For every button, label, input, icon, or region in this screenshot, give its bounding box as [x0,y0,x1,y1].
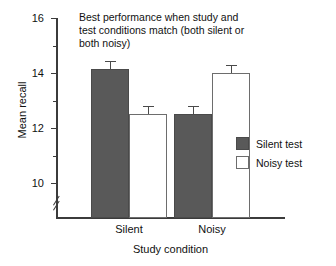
x-tick-label-noisy: Noisy [198,223,226,235]
y-tick-minor-15 [53,46,57,47]
annotation-line-1: Best performance when study and [79,11,284,24]
x-axis-title: Study condition [56,243,285,255]
y-axis-label: Mean recall [16,60,28,160]
y-tick-14: 14 [51,73,56,74]
light-swatch-icon [236,156,249,169]
y-tick-label-16: 16 [32,12,44,24]
y-tick-12: 12 [51,128,56,129]
y-tick-minor-11 [53,156,57,157]
legend-label-silent-test: Silent test [256,138,302,150]
error-cap-noisy-study-silent-test [188,106,199,107]
legend-item-noisy-test: Noisy test [236,153,302,172]
error-cap-silent-study-silent-test [105,61,116,62]
y-tick-label-10: 10 [32,177,44,189]
annotation-line-2: test conditions match (both silent or [79,24,284,37]
y-axis-line [56,18,58,218]
error-cap-silent-study-noisy-test [143,106,154,107]
bar-chart-figure: Mean recall 16 14 12 10 [0,0,336,266]
y-tick-minor-13 [53,101,57,102]
y-tick-label-12: 12 [32,122,44,134]
bar-silent-study-noisy-test [129,114,167,218]
x-tick-label-silent: Silent [115,223,143,235]
legend-item-silent-test: Silent test [236,134,302,153]
annotation-line-3: both noisy) [79,37,284,50]
y-tick-16: 16 [51,18,56,19]
y-tick-label-14: 14 [32,67,44,79]
bar-silent-study-silent-test [91,69,129,218]
legend-label-noisy-test: Noisy test [256,157,302,169]
error-cap-noisy-study-noisy-test [226,65,237,66]
y-tick-10: 10 [51,183,56,184]
dark-swatch-icon [236,137,249,150]
axis-break-icon [51,195,64,211]
bar-noisy-study-silent-test [174,114,212,218]
chart-annotation: Best performance when study and test con… [79,11,284,50]
chart-legend: Silent test Noisy test [236,134,302,172]
